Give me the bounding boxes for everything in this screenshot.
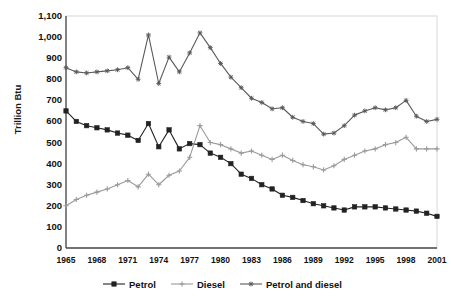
data-point-marker	[95, 126, 99, 130]
legend-label: Petrol and diesel	[266, 279, 342, 290]
data-point-marker	[352, 113, 357, 118]
data-point-marker	[363, 205, 367, 209]
data-point-marker	[342, 208, 346, 212]
data-point-marker	[126, 133, 130, 137]
data-point-marker	[167, 128, 171, 132]
data-point-marker	[249, 282, 254, 287]
data-point-marker	[383, 107, 388, 112]
data-point-marker	[270, 106, 275, 111]
data-point-marker	[105, 128, 109, 132]
data-point-marker	[424, 119, 429, 124]
data-point-marker	[362, 109, 367, 114]
data-point-marker	[64, 65, 69, 70]
data-point-marker	[414, 209, 418, 213]
data-point-marker	[404, 98, 409, 103]
data-point-marker	[301, 198, 305, 202]
data-point-marker	[198, 142, 202, 146]
data-point-marker	[229, 161, 233, 165]
plot-frame	[66, 16, 437, 248]
data-point-marker	[311, 121, 316, 126]
data-point-marker	[321, 132, 326, 137]
plus-marker	[170, 279, 194, 289]
data-point-marker	[177, 147, 181, 151]
legend-item-petrol[interactable]: Petrol	[102, 279, 156, 290]
data-point-marker	[352, 205, 356, 209]
data-point-marker	[394, 207, 398, 211]
legend-item-diesel[interactable]: Diesel	[170, 279, 225, 290]
data-point-marker	[311, 202, 315, 206]
data-point-marker	[291, 195, 295, 199]
data-point-marker	[218, 155, 222, 159]
data-point-marker	[115, 67, 120, 72]
star-marker	[239, 279, 263, 289]
data-point-marker	[177, 69, 182, 74]
data-point-marker	[332, 206, 336, 210]
data-point-marker	[290, 115, 295, 120]
data-point-marker	[136, 77, 141, 82]
data-point-marker	[156, 81, 161, 86]
data-point-marker	[280, 105, 285, 110]
data-point-marker	[435, 214, 439, 218]
data-point-marker	[239, 172, 243, 176]
data-point-marker	[342, 123, 347, 128]
data-point-marker	[208, 151, 212, 155]
data-point-marker	[84, 71, 89, 76]
data-point-marker	[228, 75, 233, 80]
data-point-marker	[74, 69, 79, 74]
data-point-marker	[136, 138, 140, 142]
data-point-marker	[404, 208, 408, 212]
data-point-marker	[383, 206, 387, 210]
data-point-marker	[64, 109, 68, 113]
legend-label: Diesel	[197, 279, 225, 290]
data-point-marker	[198, 30, 203, 35]
data-point-marker	[393, 105, 398, 110]
data-point-marker	[218, 61, 223, 66]
data-point-marker	[187, 141, 191, 145]
data-point-marker	[105, 68, 110, 73]
legend-item-petrol-and-diesel[interactable]: Petrol and diesel	[239, 279, 342, 290]
data-point-marker	[84, 123, 88, 127]
data-point-marker	[249, 96, 254, 101]
chart-legend: PetrolDieselPetrol and diesel	[0, 276, 444, 292]
data-point-marker	[74, 119, 78, 123]
data-point-marker	[146, 33, 151, 38]
data-point-marker	[373, 105, 378, 110]
data-point-marker	[239, 85, 244, 90]
data-point-marker	[112, 282, 116, 286]
data-point-marker	[95, 69, 100, 74]
data-point-marker	[179, 281, 184, 286]
data-point-marker	[321, 204, 325, 208]
square-marker	[102, 279, 126, 289]
data-point-marker	[332, 131, 337, 136]
data-point-marker	[259, 100, 264, 105]
legend-label: Petrol	[129, 279, 156, 290]
data-point-marker	[125, 65, 130, 70]
data-point-marker	[167, 55, 172, 60]
data-point-marker	[424, 211, 428, 215]
data-point-marker	[270, 187, 274, 191]
data-point-marker	[208, 45, 213, 50]
data-point-marker	[187, 51, 192, 56]
data-point-marker	[373, 205, 377, 209]
data-point-marker	[435, 117, 440, 122]
data-point-marker	[301, 119, 306, 124]
data-point-marker	[280, 193, 284, 197]
data-point-marker	[115, 131, 119, 135]
data-point-marker	[157, 145, 161, 149]
data-point-marker	[414, 114, 419, 119]
data-point-marker	[249, 176, 253, 180]
data-point-marker	[146, 121, 150, 125]
data-point-marker	[260, 183, 264, 187]
